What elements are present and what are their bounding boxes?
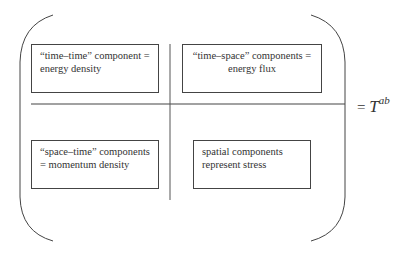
cell-time-time-line-2: energy density xyxy=(40,63,150,76)
equals-sign: = xyxy=(357,99,365,115)
cell-time-space-line-1: “time–space” components = xyxy=(191,50,313,63)
cell-spatial: spatial components represent stress xyxy=(193,140,311,189)
cell-time-space-line-2: energy flux xyxy=(191,63,313,76)
cell-spatial-line-1: spatial components xyxy=(202,146,302,159)
cell-space-time-line-1: “space–time” components xyxy=(40,146,150,159)
tensor-equation: = Tab xyxy=(357,96,390,117)
cell-space-time: “space–time” components = momentum densi… xyxy=(31,140,159,189)
cell-time-space: “time–space” components = energy flux xyxy=(182,44,322,93)
tensor-symbol: T xyxy=(369,97,378,116)
cell-spatial-line-2: represent stress xyxy=(202,159,302,172)
matrix-frame xyxy=(0,0,418,255)
tensor-indices: ab xyxy=(379,94,390,106)
cell-space-time-line-2: = momentum density xyxy=(40,159,150,172)
cell-time-time: “time–time” component = energy density xyxy=(31,44,159,93)
cell-time-time-line-1: “time–time” component = xyxy=(40,50,150,63)
